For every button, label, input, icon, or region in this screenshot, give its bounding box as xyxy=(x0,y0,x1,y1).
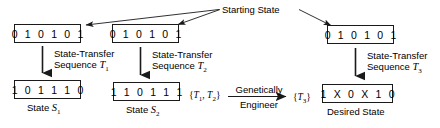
transfer-sequence-label-2: State-Transfer Sequence T2 xyxy=(152,49,212,76)
transfer-sequence-line2-1: Sequence xyxy=(54,59,99,70)
starting-state-leader-right xyxy=(299,10,331,26)
genetically-engineer-line2: Engineer xyxy=(233,99,285,110)
result-state-caption-prefix-1: State xyxy=(27,102,52,113)
transfer-sequence-subscript-1: 1 xyxy=(105,65,109,73)
starting-state-label: Starting State xyxy=(222,4,280,15)
desired-state-box: 1 X 0 X 1 0 xyxy=(322,84,393,103)
output-set-close-brace: } xyxy=(306,92,311,102)
starting-state-box-1: 0 1 0 1 0 1 xyxy=(14,24,81,43)
result-state-caption-subscript-2: 2 xyxy=(156,110,160,118)
transfer-sequence-line1-3: State-Transfer xyxy=(367,50,427,61)
transfer-sequence-subscript-2: 2 xyxy=(203,66,207,74)
transfer-sequence-label-1: State-Transfer Sequence T1 xyxy=(54,48,114,75)
result-state-caption-subscript-1: 1 xyxy=(57,108,61,116)
input-set-close-brace: } xyxy=(216,90,221,100)
transfer-sequence-label-3: State-Transfer Sequence T3 xyxy=(367,50,427,77)
transfer-sequence-line1-2: State-Transfer xyxy=(152,49,212,60)
genetic-state-transfer-diagram: Starting State 0 1 0 1 0 1 0 1 0 1 0 1 0… xyxy=(0,0,440,128)
result-state-box-2: 1 1 0 1 1 1 xyxy=(113,82,180,101)
result-state-box-1: 1 0 1 1 1 0 xyxy=(14,80,81,99)
starting-state-box-2: 0 1 0 1 0 1 xyxy=(112,24,179,43)
transfer-sequence-line1-1: State-Transfer xyxy=(54,48,114,59)
genetically-engineer-line1: Genetically xyxy=(233,84,285,95)
transfer-sequence-subscript-3: 3 xyxy=(418,67,422,75)
desired-state-caption-prefix: Desired State xyxy=(327,106,385,117)
starting-state-leader-left xyxy=(86,10,219,26)
output-sequence-set: {T3} xyxy=(293,92,311,105)
desired-state-caption: Desired State xyxy=(327,106,385,117)
transfer-sequence-line2-2: Sequence xyxy=(152,60,197,71)
transfer-sequence-line2-3: Sequence xyxy=(367,61,412,72)
result-state-caption-1: State S1 xyxy=(27,102,61,118)
result-state-caption-2: State S2 xyxy=(126,104,160,120)
result-state-caption-prefix-2: State xyxy=(126,104,151,115)
input-sequence-set: {T1, T2} xyxy=(189,90,220,103)
starting-state-leader-middle xyxy=(178,10,220,25)
starting-state-box-3: 0 1 0 1 0 1 xyxy=(327,25,394,44)
